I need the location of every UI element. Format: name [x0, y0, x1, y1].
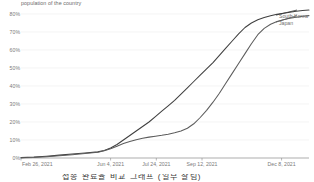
footer-cut-text-strip: 접종 완료율 비교 그래프 (일부 잘림) [0, 174, 314, 182]
y-axis-tick-label: 40% [1, 83, 20, 89]
y-axis-tick-label: 0% [1, 155, 20, 161]
y-axis-tick-label: 10% [1, 137, 20, 143]
y-axis-tick-label: 70% [1, 29, 20, 35]
gridlines [21, 14, 309, 140]
footer-cut-text: 접종 완료율 비교 그래프 (일부 잘림) [62, 174, 202, 181]
y-axis-tick-label: 20% [1, 119, 20, 125]
y-axis-tick-label: 60% [1, 47, 20, 53]
x-axis-tick-label: Jul 24, 2021 [142, 161, 170, 167]
x-axis-tick-label: Dec 8, 2021 [268, 161, 296, 167]
legend-label-south-korea[interactable]: South Korea [279, 13, 308, 19]
x-axis-tick-label: Jun 4, 2021 [97, 161, 124, 167]
y-axis-tick-label: 30% [1, 101, 20, 107]
x-axis-tick-label: Feb 26, 2021 [22, 161, 53, 167]
chart-caption-top: population of the country [21, 0, 81, 7]
y-axis-tick-label: 80% [1, 11, 20, 17]
series-line-japan [21, 16, 309, 158]
y-axis-tick-label: 50% [1, 65, 20, 71]
vaccination-line-chart: population of the country 0%10%20%30%40%… [0, 0, 314, 182]
legend-label-japan[interactable]: Japan [279, 20, 293, 26]
plot-area [0, 0, 314, 182]
x-axis-tick-label: Sep 12, 2021 [187, 161, 218, 167]
